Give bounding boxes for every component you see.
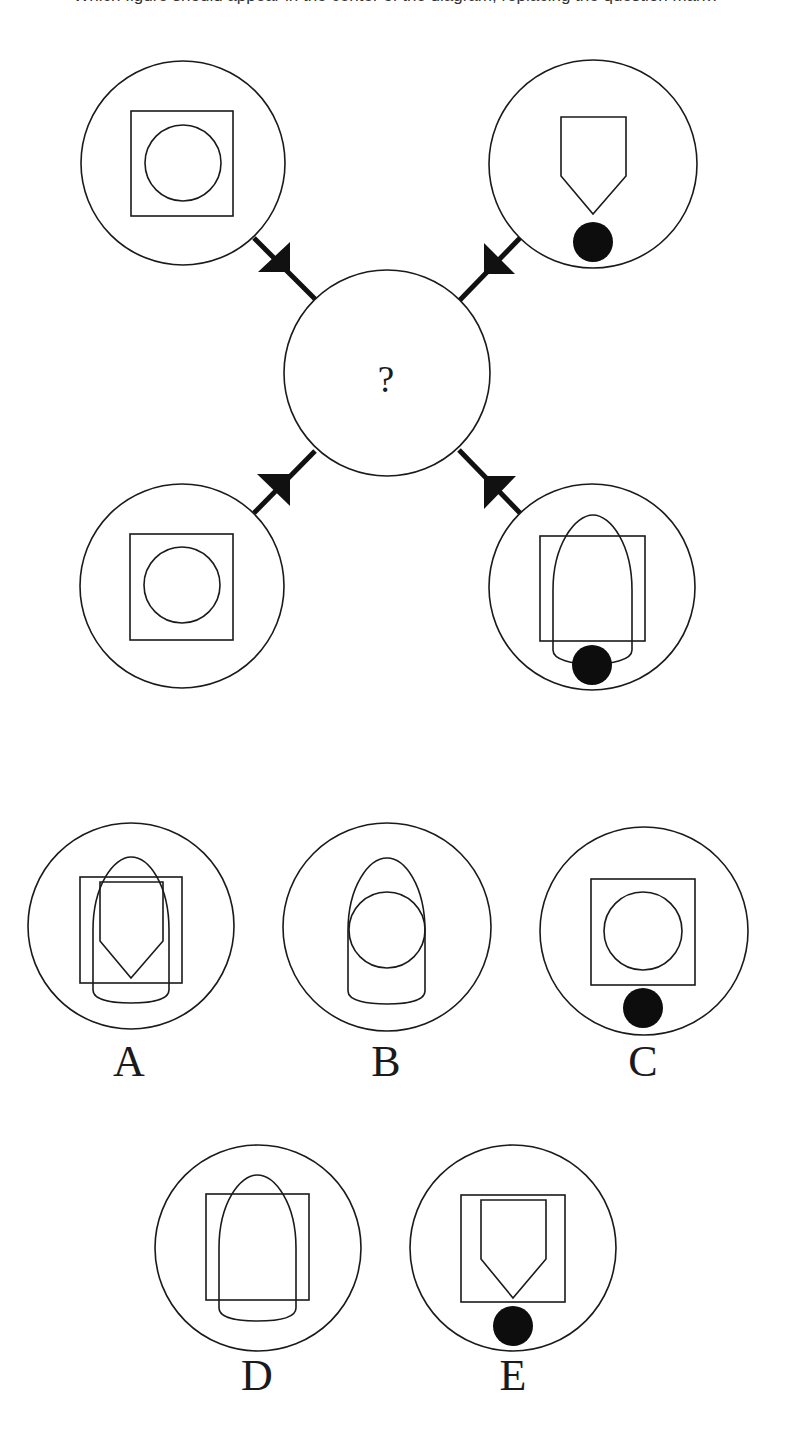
option-ring[interactable] bbox=[28, 823, 234, 1029]
cell-bottom-left bbox=[80, 484, 284, 688]
option-label: E bbox=[500, 1351, 527, 1400]
option-b[interactable]: B bbox=[283, 823, 491, 1086]
connector-top-right bbox=[459, 238, 520, 301]
option-d[interactable]: D bbox=[155, 1145, 361, 1400]
option-label: C bbox=[628, 1037, 657, 1086]
cell-ring bbox=[80, 484, 284, 688]
cell-top-left bbox=[81, 61, 285, 265]
option-c[interactable]: C bbox=[540, 827, 748, 1086]
cell-ring bbox=[81, 61, 285, 265]
puzzle-diagram: ? A B C D bbox=[0, 0, 793, 1448]
option-ring[interactable] bbox=[283, 823, 491, 1031]
cell-top-right bbox=[489, 60, 697, 268]
black-dot-shape bbox=[573, 222, 613, 262]
option-label: B bbox=[371, 1037, 400, 1086]
option-a[interactable]: A bbox=[28, 823, 234, 1086]
question-mark: ? bbox=[378, 359, 394, 400]
arrowhead-icon bbox=[257, 474, 290, 506]
connector-top-left bbox=[254, 238, 316, 300]
connector-bottom-right bbox=[459, 450, 520, 513]
option-label: A bbox=[113, 1037, 145, 1086]
black-dot-shape bbox=[493, 1306, 533, 1346]
option-e[interactable]: E bbox=[410, 1145, 616, 1400]
connector-bottom-left bbox=[254, 451, 315, 513]
cell-bottom-right bbox=[489, 484, 695, 690]
black-dot-shape bbox=[572, 645, 612, 685]
option-label: D bbox=[241, 1351, 273, 1400]
black-dot-shape bbox=[623, 988, 663, 1028]
option-ring[interactable] bbox=[155, 1145, 361, 1351]
cell-center: ? bbox=[284, 270, 490, 476]
